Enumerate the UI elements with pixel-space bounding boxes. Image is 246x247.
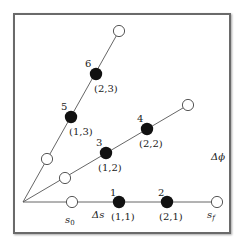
node-number-4: 4 — [137, 113, 143, 124]
ray-lattice-diagram: 1(1,1)2(2,1)3(1,2)4(2,2)5(1,3)6(2,3) Δϕ … — [0, 0, 246, 247]
node-pair-6: (2,3) — [94, 83, 118, 94]
ray-2-open-node-3 — [182, 99, 193, 110]
node-number-3: 3 — [96, 137, 102, 148]
filled-node-6 — [90, 68, 102, 80]
ray-3-open-node-0 — [41, 153, 52, 164]
sf-subscript: f — [211, 214, 216, 222]
filled-node-5 — [65, 111, 77, 123]
node-pair-3: (1,2) — [98, 162, 122, 173]
node-number-6: 6 — [85, 58, 91, 69]
ray-1-open-node-0 — [66, 196, 77, 207]
s0-subscript: 0 — [70, 219, 74, 227]
delta-s-label: Δs — [91, 209, 104, 220]
node-pair-1: (1,1) — [111, 211, 135, 222]
filled-node-3 — [100, 147, 112, 159]
ray-3-open-node-3 — [113, 25, 124, 36]
node-pair-5: (1,3) — [69, 126, 93, 137]
node-pair-4: (2,2) — [139, 138, 163, 149]
delta-phi-label: Δϕ — [210, 151, 225, 162]
node-number-1: 1 — [110, 187, 116, 198]
ray-1-open-node-3 — [211, 196, 222, 207]
node-number-5: 5 — [61, 101, 67, 112]
s0-label: s0 — [65, 214, 75, 227]
diagram-canvas: 1(1,1)2(2,1)3(1,2)4(2,2)5(1,3)6(2,3) Δϕ … — [0, 0, 246, 247]
sf-label: sf — [207, 209, 216, 222]
node-pair-2: (2,1) — [159, 211, 183, 222]
filled-node-4 — [141, 123, 153, 135]
ray-2-open-node-0 — [59, 172, 70, 183]
node-number-2: 2 — [158, 187, 164, 198]
